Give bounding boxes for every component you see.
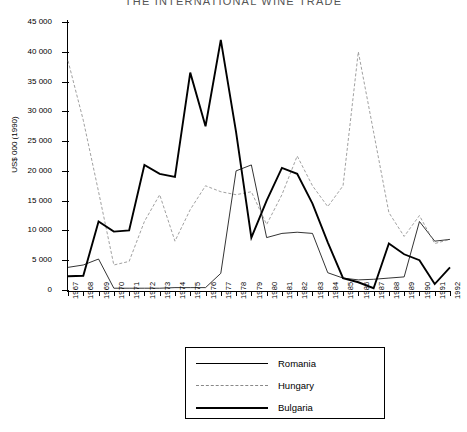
legend-swatch-hungary	[196, 379, 268, 391]
series-line-romania	[68, 165, 450, 288]
series-line-hungary	[68, 52, 450, 265]
legend-label-hungary: Hungary	[278, 380, 314, 391]
legend-swatch-romania	[196, 357, 268, 369]
legend-label-romania: Romania	[278, 358, 316, 369]
legend-swatch-bulgaria	[196, 401, 268, 413]
legend: Romania Hungary Bulgaria	[185, 347, 385, 419]
legend-label-bulgaria: Bulgaria	[278, 402, 313, 413]
legend-item-romania: Romania	[196, 356, 376, 370]
legend-item-hungary: Hungary	[196, 378, 376, 392]
wine-trade-chart: THE INTERNATIONAL WINE TRADE US$ 000 (19…	[0, 0, 467, 432]
legend-item-bulgaria: Bulgaria	[196, 400, 376, 414]
series-line-bulgaria	[68, 40, 450, 288]
